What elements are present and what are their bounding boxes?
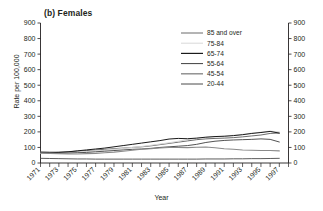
y-axis-right-tick-label: 900 [294,19,306,26]
y-axis-tick-label: 900 [24,19,36,26]
x-axis-tick-label: 1971 [25,166,41,182]
x-axis-tick-label: 1987 [172,166,188,182]
x-axis: 1971197319751977197919811983198519871989… [25,163,288,182]
x-axis-tick-label: 1973 [44,166,60,182]
x-axis-tick-label: 1975 [62,166,78,182]
x-axis-title: Year [0,194,323,201]
y-axis-right-tick-label: 100 [294,144,306,151]
y-axis-tick-label: 200 [24,128,36,135]
y-axis-right-tick-label: 800 [294,35,306,42]
x-axis-tick-label: 1985 [154,166,170,182]
y-axis-right-tick-label: 400 [294,97,306,104]
y-axis-tick-label: 0 [32,159,36,166]
y-axis-left: 0100200300400500600700800900 [24,19,41,166]
y-axis-right-tick-label: 600 [294,66,306,73]
x-axis-tick-label: 1993 [227,166,243,182]
y-axis-tick-label: 100 [24,144,36,151]
x-axis-tick-label: 1995 [246,166,262,182]
y-axis-tick-label: 600 [24,66,36,73]
y-axis-right-tick-label: 500 [294,82,306,89]
y-axis-title: Rate per 100,000 [13,39,20,125]
x-axis-tick-label: 1983 [135,166,151,182]
legend-label: 65-74 [207,50,224,57]
legend-label: 75-84 [207,40,224,47]
x-axis-tick-label: 1991 [209,166,225,182]
y-axis-right-tick-label: 0 [294,159,298,166]
y-axis-right-tick-label: 200 [294,128,306,135]
x-axis-tick-label: 1989 [191,166,207,182]
y-axis-tick-label: 400 [24,97,36,104]
y-axis-tick-label: 500 [24,82,36,89]
y-axis-right: 0100200300400500600700800900 [289,19,306,166]
series-line-20-44 [41,158,280,159]
x-axis-tick-label: 1979 [99,166,115,182]
chart-legend: 85 and over75-8465-7455-6445-5420-44 [181,29,243,87]
y-axis-right-tick-label: 300 [294,113,306,120]
series-line-85-and-over [41,133,280,152]
legend-label: 45-54 [207,70,224,77]
y-axis-tick-label: 800 [24,35,36,42]
line-chart-plot: 0100200300400500600700800900 01002003004… [0,0,323,211]
x-axis-tick-label: 1997 [264,166,280,182]
chart-figure: (b) Females Rate per 100,000 Year 010020… [0,0,323,211]
legend-label: 20-44 [207,80,224,87]
x-axis-tick-label: 1981 [117,166,133,182]
series-lines [41,131,280,159]
y-axis-tick-label: 700 [24,51,36,58]
legend-label: 85 and over [207,29,243,36]
y-axis-tick-label: 300 [24,113,36,120]
page-title: (b) Females [44,8,92,18]
x-axis-tick-label: 1977 [80,166,96,182]
y-axis-right-tick-label: 700 [294,51,306,58]
legend-label: 55-64 [207,60,224,67]
